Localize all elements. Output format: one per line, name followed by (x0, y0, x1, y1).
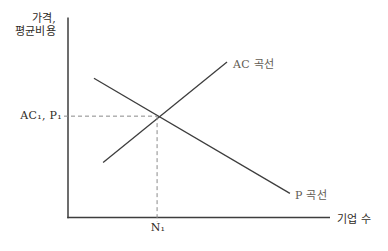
economics-diagram: 가격, 평균비용 기업 수 AC 곡선 P 곡선 AC₁, P₁ N₁ (0, 0, 388, 251)
ac-curve (103, 62, 227, 162)
y-axis-label: 가격, 평균비용 (12, 12, 56, 38)
y-tick-label: AC₁, P₁ (16, 109, 62, 122)
x-axis-label: 기업 수 (337, 210, 372, 226)
plot-svg (0, 0, 388, 251)
y-axis-label-line2: 평균비용 (12, 25, 56, 38)
x-tick-label: N₁ (145, 221, 171, 234)
p-curve (94, 78, 290, 193)
p-curve-label: P 곡선 (295, 186, 327, 202)
y-axis-label-line1: 가격, (12, 12, 56, 25)
ac-curve-label: AC 곡선 (233, 55, 274, 71)
